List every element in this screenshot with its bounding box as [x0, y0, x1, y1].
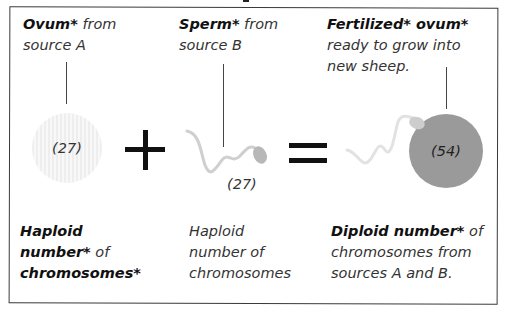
- caption-diploid-line1-rest: of: [464, 223, 483, 239]
- caption-diploid-line2: chromosomes from: [331, 244, 472, 260]
- caption-diploid-right: Diploid number* of chromosomes from sour…: [331, 221, 483, 284]
- caption-haploid-left-line2-rest: of: [91, 244, 110, 260]
- caption-haploid-left-line1: Haploid: [20, 223, 83, 239]
- caption-haploid-left: Haploid number* of chromosomes*: [20, 221, 141, 284]
- caption-haploid-left-line3: chromosomes*: [20, 265, 141, 281]
- caption-haploid-middle-line2: number of: [189, 244, 264, 260]
- caption-diploid-line1: Diploid number*: [331, 223, 464, 239]
- caption-haploid-middle-line1: Haploid: [189, 223, 244, 239]
- caption-haploid-middle-line3: chromosomes: [189, 265, 291, 281]
- fertilizing-sperm-head: [407, 115, 426, 132]
- caption-haploid-middle: Haploid number of chromosomes: [189, 221, 291, 284]
- caption-haploid-left-line2: number*: [20, 244, 91, 260]
- caption-diploid-line3: sources A and B.: [331, 265, 453, 281]
